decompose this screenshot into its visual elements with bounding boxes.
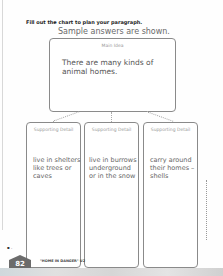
main-idea-box: Main Idea There are many kinds of animal… [49, 38, 176, 112]
supporting-detail-box-2: Supporting Detail live in burrows underg… [84, 122, 139, 268]
supporting-detail-text: live in burrows underground or in the sn… [89, 156, 139, 180]
supporting-detail-box-3: Supporting Detail carry around their hom… [143, 122, 198, 268]
connector-right [147, 111, 174, 122]
supporting-detail-text: carry around their homes – shells [150, 156, 200, 180]
footer-decorative-strip [0, 268, 223, 276]
main-idea-label: Main Idea [50, 43, 175, 48]
page-edge [2, 0, 3, 230]
connector-middle [111, 112, 112, 122]
worksheet-page: Fill out the chart to plan your paragrap… [0, 0, 223, 276]
connector-left [53, 111, 80, 122]
page-number: 82 [9, 260, 31, 268]
footer-unit-text: "HOME IN DANGER" U2 [40, 259, 85, 263]
copyright-vertical-text [206, 180, 209, 240]
supporting-detail-label: Supporting Detail [144, 127, 197, 133]
supporting-detail-label: Supporting Detail [85, 127, 138, 133]
supporting-detail-box-1: Supporting Detail live in shelters like … [26, 122, 81, 268]
main-idea-text: There are many kinds of animal homes. [62, 58, 172, 76]
instruction-text: Fill out the chart to plan your paragrap… [26, 19, 142, 25]
supporting-detail-label: Supporting Detail [27, 127, 80, 133]
supporting-detail-text: live in shelters like trees or caves [33, 156, 83, 180]
footer-marks: ▪ . [7, 245, 12, 250]
sample-answers-note: Sample answers are shown. [58, 27, 170, 36]
